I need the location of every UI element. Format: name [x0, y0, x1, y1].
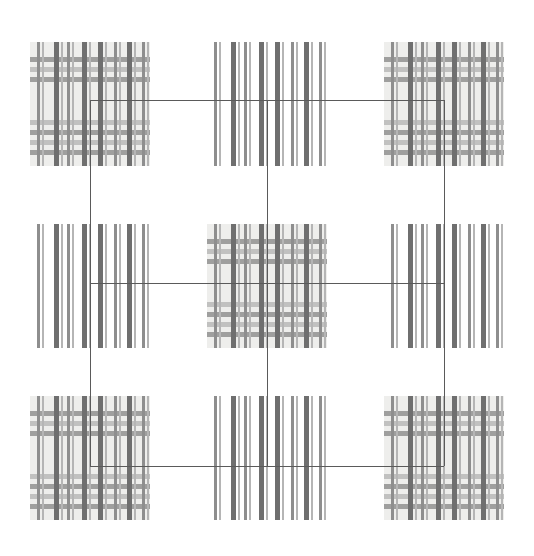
vertical-stripe — [231, 224, 236, 348]
vertical-stripe-hairline — [42, 224, 44, 348]
vertical-stripe — [391, 224, 394, 348]
vertical-stripe — [67, 42, 70, 166]
vertical-stripe — [304, 396, 309, 520]
vertical-stripe — [496, 224, 499, 348]
vertical-stripe — [421, 42, 424, 166]
vertical-stripe — [468, 396, 471, 520]
vertical-stripe-hairline — [61, 224, 63, 348]
vertical-stripe-hairline — [296, 224, 298, 348]
vertical-stripe — [67, 396, 70, 520]
vertical-stripe-hairline — [72, 396, 74, 520]
vertical-stripe-hairline — [72, 224, 74, 348]
vertical-stripe — [291, 396, 294, 520]
vertical-stripe — [127, 224, 132, 348]
vertical-stripe-hairline — [134, 396, 136, 520]
vertical-stripe — [231, 396, 236, 520]
vertical-stripe-hairline — [396, 396, 398, 520]
vertical-stripe-hairline — [459, 396, 461, 520]
vertical-stripe — [244, 224, 247, 348]
vertical-stripe — [214, 224, 217, 348]
vertical-stripe-hairline — [488, 42, 490, 166]
vertical-stripe — [127, 42, 132, 166]
vertical-stripe — [481, 42, 486, 166]
vertical-stripe-hairline — [42, 42, 44, 166]
vertical-stripe — [496, 42, 499, 166]
vertical-stripe-hairline — [147, 396, 149, 520]
vertical-stripe — [54, 396, 59, 520]
vertical-stripe — [127, 396, 132, 520]
vertical-stripe — [421, 224, 424, 348]
vertical-stripe-hairline — [311, 42, 313, 166]
vertical-stripe — [142, 396, 145, 520]
vertical-stripe — [98, 396, 103, 520]
vertical-stripe — [319, 42, 322, 166]
vertical-stripe — [114, 396, 117, 520]
vertical-stripe-hairline — [396, 224, 398, 348]
vertical-stripe — [82, 396, 87, 520]
vertical-stripe — [244, 42, 247, 166]
vertical-stripe — [408, 224, 413, 348]
vertical-stripe — [275, 42, 280, 166]
vertical-stripe — [452, 396, 457, 520]
vertical-stripe — [304, 224, 309, 348]
vertical-stripe-hairline — [311, 396, 313, 520]
vertical-stripe — [231, 42, 236, 166]
vertical-stripe-hairline — [119, 396, 121, 520]
vertical-stripe — [452, 42, 457, 166]
vertical-stripe-hairline — [459, 224, 461, 348]
vertical-stripe — [421, 396, 424, 520]
vertical-stripe-hairline — [501, 224, 503, 348]
vertical-stripe — [142, 224, 145, 348]
vertical-stripe — [37, 42, 40, 166]
vertical-stripe-hairline — [238, 396, 240, 520]
vertical-stripe-hairline — [282, 396, 284, 520]
vertical-stripe-hairline — [324, 42, 326, 166]
vertical-stripe-hairline — [501, 396, 503, 520]
vertical-stripe — [114, 224, 117, 348]
vertical-stripe-hairline — [473, 42, 475, 166]
vertical-stripe-hairline — [105, 42, 107, 166]
vertical-stripe-hairline — [324, 224, 326, 348]
vertical-stripe-hairline — [396, 42, 398, 166]
vertical-stripe — [142, 42, 145, 166]
connector-bottom-horizontal — [90, 466, 444, 467]
vertical-stripe-hairline — [311, 224, 313, 348]
vertical-stripe — [481, 224, 486, 348]
vertical-stripe — [37, 224, 40, 348]
vertical-stripe-hairline — [473, 396, 475, 520]
vertical-stripe — [291, 42, 294, 166]
vertical-stripe-hairline — [134, 42, 136, 166]
vertical-stripe-hairline — [473, 224, 475, 348]
vertical-stripe-hairline — [134, 224, 136, 348]
vertical-stripe-hairline — [415, 224, 417, 348]
vertical-stripe-hairline — [249, 396, 251, 520]
vertical-stripe-hairline — [426, 224, 428, 348]
vertical-stripe-hairline — [488, 396, 490, 520]
vertical-stripe — [214, 42, 217, 166]
vertical-stripe — [259, 42, 264, 166]
vertical-stripe — [436, 42, 441, 166]
figure-canvas — [0, 0, 534, 556]
vertical-stripe-hairline — [415, 396, 417, 520]
vertical-stripe — [98, 224, 103, 348]
vertical-stripe — [114, 42, 117, 166]
vertical-stripe-hairline — [219, 224, 221, 348]
vertical-stripe — [259, 396, 264, 520]
vertical-stripe-hairline — [105, 396, 107, 520]
vertical-stripe-hairline — [488, 224, 490, 348]
vertical-stripe-hairline — [42, 396, 44, 520]
vertical-stripe — [275, 224, 280, 348]
vertical-stripe — [319, 224, 322, 348]
vertical-stripe — [244, 396, 247, 520]
vertical-stripe-hairline — [459, 42, 461, 166]
vertical-stripe-hairline — [147, 42, 149, 166]
vertical-stripe — [54, 224, 59, 348]
vertical-stripe-hairline — [61, 42, 63, 166]
vertical-stripe-hairline — [61, 396, 63, 520]
connector-right-vertical — [444, 100, 445, 466]
vertical-stripe — [291, 224, 294, 348]
vertical-stripe-hairline — [105, 224, 107, 348]
vertical-stripe-hairline — [426, 396, 428, 520]
vertical-stripe — [54, 42, 59, 166]
vertical-stripe — [468, 224, 471, 348]
